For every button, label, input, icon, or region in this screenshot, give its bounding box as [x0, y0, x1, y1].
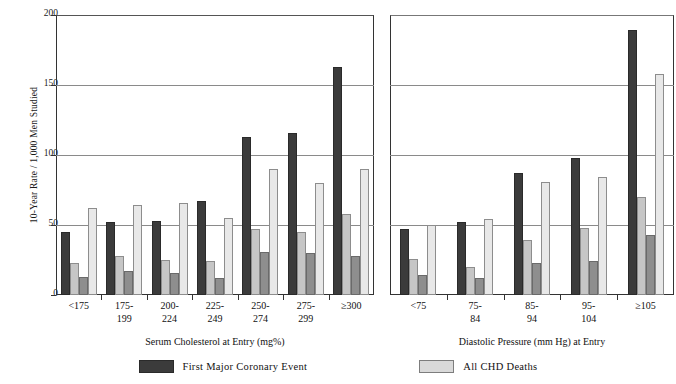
bar [260, 252, 269, 295]
x-tick-mark [192, 295, 193, 300]
bar [418, 275, 427, 295]
x-tick-label: 85- 94 [504, 300, 561, 334]
y-tick-label: 200 [18, 9, 58, 19]
bar-group [390, 15, 447, 295]
bar-group [617, 15, 674, 295]
bar [637, 197, 646, 295]
bar [297, 232, 306, 295]
bar-set [61, 15, 97, 295]
y-tick-mark [51, 295, 56, 296]
bar [224, 218, 233, 295]
x-tick-label: 250- 274 [238, 300, 283, 334]
bar-set [106, 15, 142, 295]
x-tick-label: 200- 224 [147, 300, 192, 334]
x-axis-title-left: Serum Cholesterol at Entry (mg%) [56, 336, 374, 347]
bar [106, 222, 115, 295]
y-tick-label: 0 [18, 289, 58, 299]
chart-figure: 10-Year Rate / 1,000 Men Studied 0501001… [0, 0, 676, 384]
bar-group [56, 15, 101, 295]
x-tick-label: <175 [56, 300, 101, 334]
bar-set [333, 15, 369, 295]
chart-legend: First Major Coronary Event All CHD Death… [0, 360, 676, 373]
y-tick-label: 150 [18, 79, 58, 89]
bar-set [514, 15, 550, 295]
bar-groups [390, 15, 674, 295]
x-axis-categories-left: <175175- 199200- 224225- 249250- 274275-… [56, 300, 374, 334]
bar [532, 263, 541, 295]
bar [170, 273, 179, 295]
bar [61, 232, 70, 295]
bar [351, 256, 360, 295]
bar-group [101, 15, 146, 295]
bar [571, 158, 580, 295]
bar-set [197, 15, 233, 295]
x-tick-label: 95- 104 [560, 300, 617, 334]
legend-label: All CHD Deaths [463, 361, 537, 372]
panel-diastolic-pressure [390, 15, 674, 295]
bar-group [238, 15, 283, 295]
bar [70, 263, 79, 295]
legend-swatch-dark [139, 360, 174, 373]
y-tick-label: 100 [18, 149, 58, 159]
bar [88, 208, 97, 295]
bar [580, 228, 589, 295]
y-tick-label: 50 [18, 219, 58, 229]
x-tick-label: ≥105 [617, 300, 674, 334]
bar-set [628, 15, 664, 295]
bar [242, 137, 251, 295]
x-tick-mark [147, 295, 148, 300]
panel-serum-cholesterol [56, 15, 374, 295]
legend-label: First Major Coronary Event [183, 361, 308, 372]
bar [655, 74, 664, 295]
bar [315, 183, 324, 295]
x-tick-mark [283, 295, 284, 300]
bar [124, 271, 133, 295]
x-axis-title-right: Diastolic Pressure (mm Hg) at Entry [390, 336, 674, 347]
bar-group [447, 15, 504, 295]
bar [466, 267, 475, 295]
bar-set [400, 15, 436, 295]
bar [288, 133, 297, 295]
bar-group [560, 15, 617, 295]
bar [215, 278, 224, 295]
legend-item-first-major-coronary-event: First Major Coronary Event [139, 360, 308, 373]
x-tick-label: 275- 299 [283, 300, 328, 334]
bar [133, 205, 142, 295]
bar-set [457, 15, 493, 295]
bar [115, 256, 124, 295]
bar [179, 203, 188, 295]
x-tick-mark [617, 295, 618, 300]
x-axis-categories-right: <7575- 8485- 9495- 104≥105 [390, 300, 674, 334]
bar [475, 278, 484, 295]
bar [342, 214, 351, 295]
bar [514, 173, 523, 295]
x-tick-label: 175- 199 [101, 300, 146, 334]
x-tick-label: <75 [390, 300, 447, 334]
bar [589, 261, 598, 295]
bar [598, 177, 607, 295]
legend-item-all-chd-deaths: All CHD Deaths [419, 360, 537, 373]
bar [206, 261, 215, 295]
x-tick-mark [238, 295, 239, 300]
bar-set [242, 15, 278, 295]
bar [646, 235, 655, 295]
x-tick-label: 75- 84 [447, 300, 504, 334]
bar-group [504, 15, 561, 295]
bar [541, 182, 550, 295]
bar [409, 259, 418, 295]
x-tick-label: ≥300 [329, 300, 374, 334]
bar [360, 169, 369, 295]
bar-group [192, 15, 237, 295]
bar [79, 277, 88, 295]
bar [306, 253, 315, 295]
bar [333, 67, 342, 295]
bar [269, 169, 278, 295]
legend-swatch-light [419, 360, 454, 373]
x-tick-label: 225- 249 [192, 300, 237, 334]
bar [251, 229, 260, 295]
bar [400, 229, 409, 295]
bar-set [288, 15, 324, 295]
x-tick-mark [101, 295, 102, 300]
bar [161, 260, 170, 295]
x-tick-mark [560, 295, 561, 300]
